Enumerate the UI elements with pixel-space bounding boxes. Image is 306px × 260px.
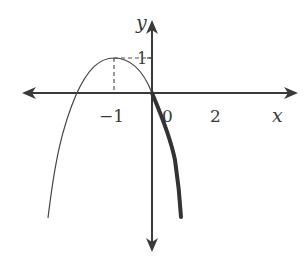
x-tick-label-2: 2: [210, 106, 221, 126]
x-axis-label: x: [272, 104, 283, 126]
graph: y 1 −1 0 2 x: [0, 0, 306, 260]
x-tick-label-neg1: −1: [99, 106, 124, 126]
x-axis: [22, 87, 298, 99]
x-tick-label-0: 0: [162, 106, 173, 126]
y-axis-label: y: [135, 11, 147, 33]
y-tick-label-1: 1: [137, 49, 147, 68]
y-axis: [146, 20, 158, 252]
thin-parabola-curve: [48, 58, 152, 218]
